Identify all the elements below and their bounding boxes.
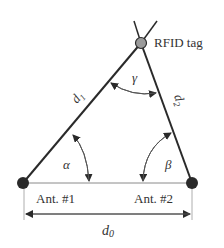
- antenna-2-label: Ant. #2: [134, 191, 173, 206]
- antenna-1-node: [17, 177, 29, 189]
- d0-label: d0: [102, 223, 114, 239]
- rfid-tag-label: RFID tag: [154, 35, 203, 50]
- beta-label: β: [164, 157, 172, 172]
- antenna-2-node: [186, 177, 198, 189]
- d1-line: [23, 43, 141, 183]
- gamma-label: γ: [132, 70, 138, 85]
- d2-label: d2: [169, 92, 189, 108]
- antenna-1-label: Ant. #1: [36, 191, 75, 206]
- d1-label: d1: [68, 88, 88, 107]
- alpha-arc: [73, 135, 89, 181]
- alpha-label: α: [63, 157, 71, 172]
- rfid-tag-node: [136, 38, 147, 49]
- triangulation-diagram: RFID tag Ant. #1 Ant. #2 γ α β d1 d2 d0: [0, 0, 224, 248]
